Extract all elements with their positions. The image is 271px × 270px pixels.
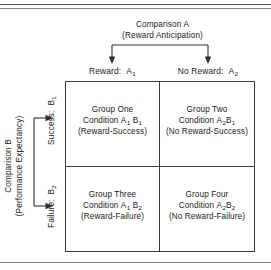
column-header-a2-code: A2 xyxy=(226,66,238,76)
column-header-a1-code: A1 xyxy=(124,66,136,76)
matrix-cell-a1b2[interactable]: Group Three Condition A1 B2 (Reward-Fail… xyxy=(66,167,160,252)
cell-group-label: Group Two xyxy=(187,104,228,115)
matrix-cell-a2b2[interactable]: Group Four Condition A2B2 (No Reward-Fai… xyxy=(160,167,254,252)
cell-descriptor-label: (No Reward-Failure) xyxy=(169,211,245,222)
cell-condition-label: Condition A1 B1 xyxy=(83,115,142,126)
comparison-a-bracket xyxy=(104,44,216,65)
page-rule-bottom xyxy=(0,262,271,263)
comparison-a-title: Comparison A xyxy=(60,19,265,30)
comparison-a-subtitle: (Reward Anticipation) xyxy=(60,30,265,41)
matrix-cell-a2b1[interactable]: Group Two Condition A2B1 (No Reward-Succ… xyxy=(160,82,254,167)
column-header-a2: No Reward: A2 xyxy=(160,66,256,76)
cell-condition-label: Condition A1 B2 xyxy=(83,200,142,211)
page-rule-top-upper xyxy=(0,4,271,5)
cell-condition-label: Condition A2B1 xyxy=(179,115,236,126)
column-header-a1-label: Reward: xyxy=(89,66,121,76)
column-header-a1: Reward: A1 xyxy=(65,66,160,76)
column-header-a2-label: No Reward: xyxy=(178,66,224,76)
matrix-cell-a1b1[interactable]: Group One Condition A1 B1 (Reward-Succes… xyxy=(66,82,160,167)
comparison-a-heading: Comparison A (Reward Anticipation) xyxy=(60,19,265,41)
page-rule-top-lower xyxy=(0,8,271,9)
cell-descriptor-label: (No Reward-Success) xyxy=(166,126,248,137)
row-header-b1-code: B1 xyxy=(47,96,56,108)
bracket-right-arrows-icon xyxy=(33,112,54,212)
cell-condition-label: Condition A2B2 xyxy=(179,200,236,211)
factorial-design-matrix: Group One Condition A1 B1 (Reward-Succes… xyxy=(65,81,255,252)
comparison-b-title: Comparison B xyxy=(3,106,14,226)
cell-descriptor-label: (Reward-Success) xyxy=(78,126,147,137)
bracket-down-arrows-icon xyxy=(104,44,216,65)
comparison-b-bracket xyxy=(33,112,54,212)
cell-group-label: Group Four xyxy=(186,189,229,200)
comparison-b-subtitle: (Performance Expectancy) xyxy=(14,106,25,226)
cell-group-label: Group Three xyxy=(89,189,136,200)
cell-descriptor-label: (Reward-Failure) xyxy=(81,211,144,222)
cell-group-label: Group One xyxy=(92,104,133,115)
comparison-b-heading: Comparison B (Performance Expectancy) xyxy=(3,106,25,226)
